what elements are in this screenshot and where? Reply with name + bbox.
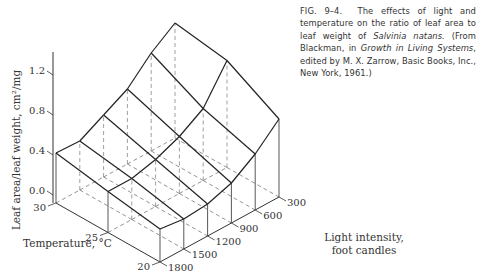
surface-line-light — [179, 109, 203, 137]
surface-line-light — [208, 183, 232, 204]
light-axis-label-units: foot candles — [332, 244, 397, 256]
surface-line-light — [132, 160, 156, 179]
surface-line-light — [255, 119, 279, 154]
surface-line-temp — [127, 89, 179, 137]
surface-line-temp — [179, 137, 231, 184]
base-edge-left — [108, 233, 160, 263]
caption-fig-number: FIG. 9–4. — [300, 6, 342, 16]
base-grid-line — [127, 164, 179, 194]
surface-line-temp — [203, 109, 255, 155]
light-tick-label: 900 — [239, 223, 258, 234]
temp-tick-label: 30 — [33, 202, 46, 213]
base-grid-line — [80, 190, 132, 220]
axis-labels: 0.00.40.81.2Leaf area/leaf weight, cm²/m… — [10, 65, 404, 273]
surface-line-temp — [156, 160, 208, 205]
surface-line-light — [56, 141, 80, 153]
base-edge-front — [160, 249, 184, 262]
surface-line-light — [156, 137, 180, 160]
surface-line-temp — [56, 153, 108, 192]
base-grid-line — [104, 177, 156, 207]
base-grid-line — [156, 207, 208, 237]
z-tick — [47, 71, 53, 75]
base-grid-line — [179, 194, 231, 224]
base-grid-line — [132, 220, 184, 250]
surface-line-light — [108, 179, 132, 192]
surface-line-light — [151, 23, 175, 53]
light-tick-label: 1800 — [168, 262, 193, 273]
z-tick-label: 0.0 — [29, 185, 45, 196]
base-edge-left — [56, 203, 108, 233]
figure-caption: FIG. 9–4. The effects of light and tempe… — [300, 5, 476, 79]
light-tick — [255, 210, 262, 214]
z-tick-label: 1.2 — [29, 65, 45, 76]
base-grid-line — [108, 220, 132, 233]
z-tick — [47, 151, 53, 155]
light-tick-label: 600 — [263, 210, 282, 221]
base-grid-line — [56, 190, 80, 203]
caption-species: Salvinia natans. — [373, 31, 445, 41]
z-tick — [47, 111, 53, 115]
surface-line-light — [104, 89, 128, 115]
base-grid-line — [227, 168, 279, 198]
z-tick-label: 0.4 — [29, 145, 45, 156]
surface-line-temp — [80, 141, 132, 179]
z-tick — [47, 191, 53, 195]
surface-line-temp — [175, 23, 227, 61]
surface-line-temp — [151, 53, 203, 109]
temp-tick — [100, 233, 108, 236]
surface-line-temp — [132, 179, 184, 220]
base-grid-line — [175, 138, 227, 168]
temp-tick — [152, 262, 160, 265]
surface-line-light — [127, 53, 151, 89]
light-tick — [160, 262, 167, 266]
light-tick — [231, 223, 238, 227]
surface-line-temp — [108, 192, 160, 230]
base-grid-line — [104, 164, 128, 177]
z-tick-label: 0.8 — [29, 105, 45, 116]
temp-tick — [48, 203, 56, 206]
light-axis-label: Light intensity, — [324, 231, 404, 243]
base-edge-front — [255, 197, 279, 210]
base-edge-front — [208, 223, 232, 236]
light-tick-label: 1200 — [216, 236, 241, 247]
light-tick — [279, 197, 286, 201]
surface-line-temp — [227, 61, 279, 120]
surface-line-light — [160, 219, 184, 229]
temperature-axis-label: Temperature, °C — [23, 237, 112, 249]
caption-book: Growth in Living Systems — [361, 43, 474, 53]
surface-line-light — [184, 204, 208, 219]
temp-tick-label: 20 — [137, 261, 150, 272]
surface-line-light — [203, 61, 227, 109]
base-edge-front — [184, 236, 208, 249]
base-grid-line — [203, 168, 227, 181]
light-tick-label: 1500 — [192, 249, 217, 260]
surface-line-light — [231, 154, 255, 183]
base-edge-front — [231, 210, 255, 223]
z-axis-label: Leaf area/leaf weight, cm²/mg — [10, 70, 22, 230]
surface-line-temp — [104, 115, 156, 160]
light-tick — [184, 249, 191, 253]
surface-line-light — [80, 115, 104, 141]
light-tick-label: 300 — [287, 197, 306, 208]
surface-mesh — [56, 23, 279, 229]
hidden-vertical-lines — [80, 23, 227, 220]
light-tick — [208, 236, 215, 240]
